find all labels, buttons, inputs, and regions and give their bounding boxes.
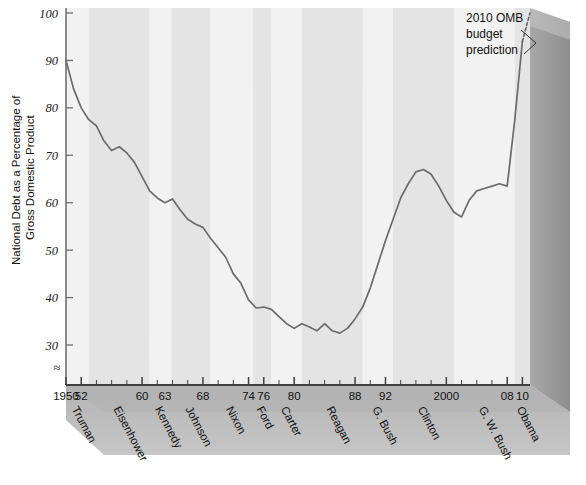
y-tick-label: 40 — [46, 291, 59, 305]
x-tick-label: 74 — [242, 390, 255, 402]
x-tick-label: 76 — [257, 390, 270, 402]
y-tick-label: 30 — [45, 339, 59, 353]
y-tick-label: 90 — [46, 54, 59, 68]
x-tick-label: 52 — [75, 390, 88, 402]
x-tick-label: 10 — [516, 390, 529, 402]
chart-figure: 10090807060504030 ≈ 19505260636874768088… — [0, 0, 586, 485]
term-band-g-bush — [363, 8, 393, 385]
omb-annotation-line2: budget — [466, 27, 503, 41]
x-tick-label: 08 — [501, 390, 514, 402]
x-tick-label: 88 — [349, 390, 362, 402]
y-tick-label: 70 — [46, 149, 59, 163]
term-band-carter — [271, 8, 301, 385]
y-tick-label: 100 — [39, 7, 59, 21]
term-band-truman — [66, 8, 89, 385]
y-axis-break-symbol: ≈ — [53, 361, 60, 375]
term-band-g-w-bush — [454, 8, 515, 385]
term-band-eisenhower — [89, 8, 150, 385]
x-tick-label: 92 — [379, 390, 392, 402]
term-band-johnson — [172, 8, 211, 385]
y-tick-label: 80 — [46, 101, 59, 115]
right-wall-plane — [530, 8, 570, 412]
omb-annotation-line3: prediction — [466, 43, 518, 57]
president-term-bands — [66, 8, 530, 385]
omb-annotation-line1: 2010 OMB — [466, 11, 523, 25]
term-band-obama — [515, 8, 530, 385]
x-tick-label: 80 — [288, 390, 301, 402]
x-tick-label: 63 — [158, 390, 171, 402]
x-tick-label: 2000 — [434, 390, 460, 402]
term-band-nixon — [211, 8, 254, 385]
y-axis-title-line2: Gross Domestic Product — [24, 115, 36, 240]
y-tick-label: 60 — [46, 196, 59, 210]
y-axis-title-line1: National Debt as a Percentage of — [10, 95, 22, 265]
y-axis-title: National Debt as a Percentage of Gross D… — [10, 95, 36, 265]
chart-canvas: 10090807060504030 ≈ 19505260636874768088… — [0, 0, 586, 485]
x-tick-label: 68 — [197, 390, 210, 402]
y-tick-label: 50 — [46, 244, 59, 258]
term-band-ford — [253, 8, 271, 385]
term-band-kennedy — [150, 8, 172, 385]
x-tick-label: 60 — [136, 390, 149, 402]
